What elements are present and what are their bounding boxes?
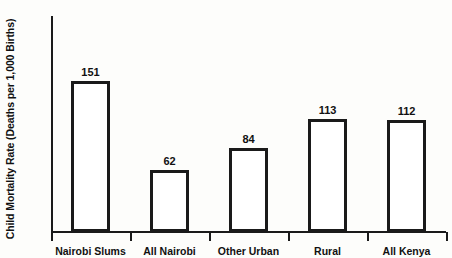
bar [150, 170, 189, 232]
bar-value-label: 112 [398, 105, 416, 117]
x-category-label: Rural [314, 245, 341, 257]
x-axis-tick [446, 232, 448, 241]
bar [229, 148, 268, 232]
bar [71, 81, 110, 232]
bar-value-label: 84 [242, 133, 254, 145]
x-category-label: Nairobi Slums [55, 245, 126, 257]
x-axis-tick [209, 232, 211, 241]
x-axis-tick [51, 232, 53, 241]
bar-value-label: 151 [81, 66, 99, 78]
y-axis-line [51, 16, 53, 232]
bar [387, 120, 426, 232]
x-axis-tick [367, 232, 369, 241]
x-category-label: All Nairobi [143, 245, 196, 257]
x-category-label: Other Urban [218, 245, 279, 257]
x-axis-tick [288, 232, 290, 241]
bar [308, 119, 347, 232]
bar-value-label: 113 [319, 104, 337, 116]
plot-area: 1516284113112 Nairobi SlumsAll NairobiOt… [51, 16, 446, 232]
x-axis-tick [130, 232, 132, 241]
bar-chart: Child Mortality Rate (Deaths per 1,000 B… [0, 0, 452, 258]
x-category-label: All Kenya [383, 245, 431, 257]
bar-value-label: 62 [163, 155, 175, 167]
y-axis-title: Child Mortality Rate (Deaths per 1,000 B… [0, 0, 20, 258]
